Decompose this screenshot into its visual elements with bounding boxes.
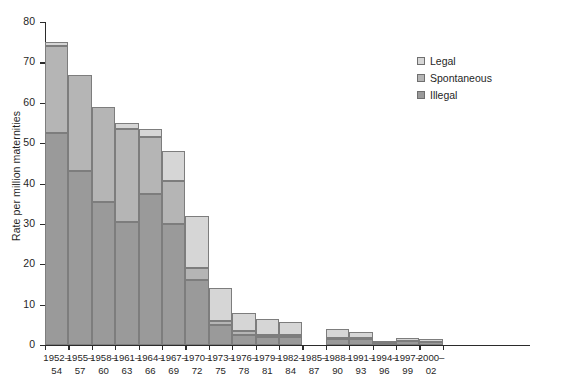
y-tick-label: 70 [23, 55, 35, 67]
bar-segment-legal [396, 338, 419, 341]
x-tick-label-line: 2000– [409, 352, 453, 365]
bar-segment-legal [326, 329, 349, 338]
legend-item-spontaneous[interactable]: Spontaneous [417, 70, 492, 85]
x-tick-mark [232, 345, 233, 350]
bar-segment-spontaneous [279, 335, 302, 337]
y-tick-label: 50 [23, 136, 35, 148]
bar-segment-legal [115, 123, 138, 129]
chart-legend: LegalSpontaneousIllegal [417, 53, 492, 104]
bar-segment-illegal [279, 337, 302, 345]
bar-segment-legal [279, 322, 302, 335]
x-tick-mark [349, 345, 350, 350]
y-tick-label: 0 [29, 338, 35, 350]
x-tick-mark [302, 345, 303, 350]
bar-segment-spontaneous [232, 331, 255, 335]
x-tick-mark [396, 345, 397, 350]
bar-segment-illegal [185, 280, 208, 345]
x-tick-mark [419, 345, 420, 350]
bar-segment-legal [185, 216, 208, 268]
legend-item-legal[interactable]: Legal [417, 53, 492, 68]
x-tick-mark [92, 345, 93, 350]
bar-segment-spontaneous [185, 268, 208, 280]
bar-segment-legal [162, 151, 185, 181]
bar-segment-legal [373, 341, 396, 343]
x-tick-mark [115, 345, 116, 350]
bar-segment-legal [45, 42, 68, 46]
bar-segment-illegal [419, 342, 442, 345]
bar-segment-illegal [92, 202, 115, 345]
bar-segment-legal [139, 129, 162, 137]
x-tick-label: 2000–02 [409, 352, 453, 377]
x-tick-mark [45, 345, 46, 350]
bar-segment-illegal [209, 325, 232, 345]
stacked-bar-chart: Rate per million maternities 01020304050… [0, 0, 561, 389]
x-tick-mark [209, 345, 210, 350]
bar-segment-illegal [373, 343, 396, 345]
legend-swatch-icon [417, 74, 425, 82]
legend-item-label: Legal [430, 55, 456, 67]
x-tick-mark [185, 345, 186, 350]
bar-segment-spontaneous [256, 335, 279, 337]
legend-item-illegal[interactable]: Illegal [417, 87, 492, 102]
x-tick-mark [443, 345, 444, 350]
bar-segment-spontaneous [68, 75, 91, 172]
y-tick-label: 20 [23, 257, 35, 269]
bar-segment-spontaneous [45, 46, 68, 133]
x-tick-mark [68, 345, 69, 350]
legend-swatch-icon [417, 91, 425, 99]
y-tick-label: 80 [23, 15, 35, 27]
bar-segment-illegal [162, 224, 185, 345]
bar-segment-spontaneous [115, 129, 138, 222]
bar-segment-illegal [139, 194, 162, 345]
bar-segment-illegal [115, 222, 138, 345]
x-tick-mark [373, 345, 374, 350]
x-tick-mark [162, 345, 163, 350]
x-tick-mark [139, 345, 140, 350]
y-tick-label: 60 [23, 96, 35, 108]
bar-segment-spontaneous [209, 321, 232, 325]
bar-segment-legal [349, 332, 372, 338]
y-tick-label: 30 [23, 217, 35, 229]
y-tick-label: 40 [23, 177, 35, 189]
x-tick-mark [279, 345, 280, 350]
bar-segment-illegal [45, 133, 68, 345]
legend-item-label: Spontaneous [430, 72, 492, 84]
bar-segment-illegal [232, 335, 255, 345]
y-tick-label: 10 [23, 298, 35, 310]
bar-segment-illegal [349, 339, 372, 345]
bar-segment-illegal [256, 337, 279, 345]
bar-segment-spontaneous [139, 137, 162, 194]
legend-item-label: Illegal [430, 89, 457, 101]
x-axis-line [45, 345, 530, 346]
bar-segment-illegal [68, 171, 91, 345]
y-axis-title: Rate per million maternities [10, 86, 22, 266]
x-tick-mark [256, 345, 257, 350]
legend-swatch-icon [417, 57, 425, 65]
x-tick-label-line: 02 [409, 365, 453, 378]
bar-segment-legal [256, 319, 279, 335]
bar-segment-spontaneous [92, 107, 115, 202]
bar-segment-illegal [326, 339, 349, 345]
bar-segment-spontaneous [162, 181, 185, 223]
bar-segment-illegal [396, 341, 419, 345]
bar-segment-legal [419, 339, 442, 341]
bar-segment-legal [232, 313, 255, 331]
bar-segment-legal [209, 288, 232, 320]
x-tick-mark [326, 345, 327, 350]
